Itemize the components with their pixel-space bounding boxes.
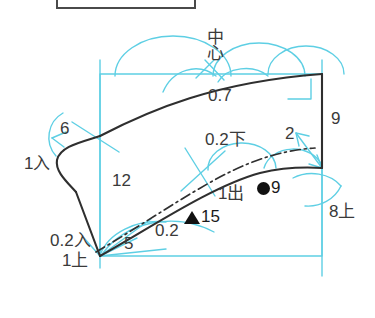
pattern-drawing bbox=[0, 0, 375, 318]
label-left-upper: 6 bbox=[60, 120, 69, 137]
filled-triangle-marker-icon bbox=[184, 211, 200, 224]
label-one-out: 1出 bbox=[218, 185, 244, 202]
label-left-entry: 1入 bbox=[24, 155, 50, 172]
diagram-canvas: 中心 0.7 6 1入 12 0.2入 1上 5 0.2 0.2下 2 9 8上… bbox=[0, 0, 375, 318]
guide-arc-top-small-b bbox=[218, 69, 268, 82]
marker-circle-9: 9 bbox=[257, 178, 280, 198]
label-bottom-hem: 0.2 bbox=[155, 222, 179, 239]
filled-circle-marker-icon bbox=[257, 182, 270, 195]
marker-triangle-15: 15 bbox=[184, 207, 220, 227]
guide-right-angle-marker bbox=[288, 79, 311, 99]
label-top-seam: 0.7 bbox=[208, 87, 232, 104]
label-right-two: 2 bbox=[285, 125, 294, 142]
pattern-outline-layer bbox=[57, 74, 322, 256]
guide-dimension-arrow-2 bbox=[296, 133, 322, 168]
guide-tick-shoulder-b bbox=[52, 138, 64, 147]
label-center: 中心 bbox=[204, 30, 226, 62]
guide-arc-low-far bbox=[293, 174, 341, 186]
guide-arc-top-right bbox=[268, 46, 344, 74]
marker-circle-value: 9 bbox=[271, 178, 280, 198]
label-bottom-entry: 0.2入 bbox=[50, 232, 91, 249]
label-mid-lower: 0.2下 bbox=[205, 131, 246, 148]
label-right-eight-up: 8上 bbox=[329, 203, 355, 220]
outline-left-curl bbox=[57, 136, 100, 192]
marker-triangle-value: 15 bbox=[201, 207, 220, 227]
label-bottom-top: 1上 bbox=[62, 252, 88, 269]
label-bottom-five: 5 bbox=[124, 235, 133, 252]
label-body-width: 12 bbox=[112, 172, 131, 189]
label-right-nine: 9 bbox=[331, 110, 340, 127]
label-center-text: 中心 bbox=[207, 28, 224, 63]
